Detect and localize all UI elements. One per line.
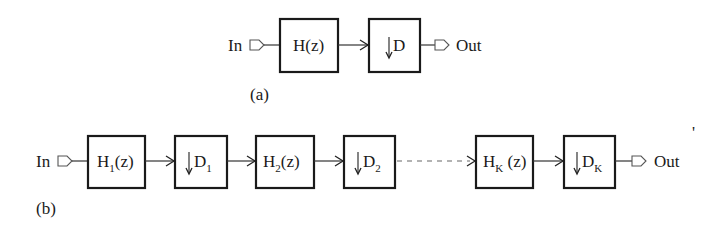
filter-label-h1: H1(z)	[97, 152, 134, 174]
output-label-a: Out	[456, 36, 482, 55]
decimator-label-a: D	[393, 36, 405, 55]
input-terminal-icon	[58, 156, 72, 166]
output-terminal-icon	[632, 156, 646, 166]
output-terminal-icon	[435, 40, 449, 50]
diagram-b: In H1(z) D1 H2(z) D2 HK (z) D	[36, 136, 680, 218]
filter-label-hk: HK (z)	[483, 152, 526, 174]
input-label-b: In	[36, 152, 51, 171]
filter-label-a: H(z)	[293, 36, 324, 55]
caption-a: (a)	[250, 85, 269, 104]
output-label-b: Out	[654, 152, 680, 171]
diagram-a: In H(z) D Out (a)	[228, 19, 482, 104]
input-terminal-icon	[250, 40, 264, 50]
input-label-a: In	[228, 36, 243, 55]
caption-b: (b)	[36, 199, 56, 218]
multistage-decimation-diagram: In H(z) D Out (a) In H1(z) D1 H2(z)	[0, 0, 725, 228]
filter-label-h2: H2(z)	[263, 152, 300, 174]
stray-mark: '	[692, 123, 695, 142]
